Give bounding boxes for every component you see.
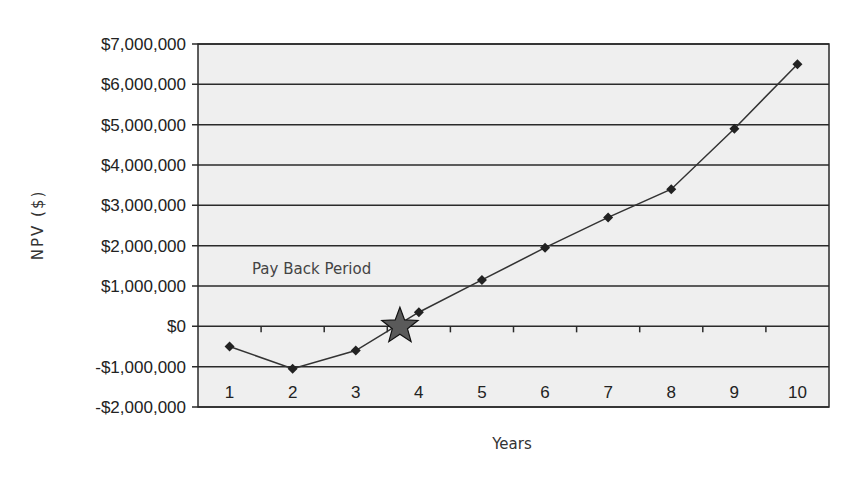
payback-period-label: Pay Back Period: [252, 260, 371, 278]
x-tick-label: 5: [477, 383, 486, 402]
y-tick-label: $3,000,000: [101, 196, 186, 215]
y-tick-label: -$2,000,000: [95, 398, 186, 417]
y-tick-label: $1,000,000: [101, 277, 186, 296]
plot-area: [198, 44, 829, 407]
x-tick-label: 9: [730, 383, 739, 402]
x-tick-label: 10: [788, 383, 807, 402]
npv-line-chart: $7,000,000$6,000,000$5,000,000$4,000,000…: [0, 0, 851, 479]
x-tick-label: 6: [540, 383, 549, 402]
y-tick-label: $6,000,000: [101, 75, 186, 94]
y-tick-label: $5,000,000: [101, 116, 186, 135]
y-axis-title: NPV ($): [29, 190, 47, 261]
x-tick-label: 7: [603, 383, 612, 402]
y-axis-tick-labels: $7,000,000$6,000,000$5,000,000$4,000,000…: [95, 35, 186, 417]
y-tick-label: $0: [167, 317, 186, 336]
x-tick-label: 3: [351, 383, 360, 402]
y-tick-label: $7,000,000: [101, 35, 186, 54]
x-tick-label: 4: [414, 383, 423, 402]
y-tick-label: $4,000,000: [101, 156, 186, 175]
y-tick-label: $2,000,000: [101, 237, 186, 256]
y-tick-label: -$1,000,000: [95, 358, 186, 377]
x-axis-title: Years: [491, 435, 532, 453]
x-tick-label: 1: [225, 383, 234, 402]
x-tick-label: 8: [667, 383, 676, 402]
x-tick-label: 2: [288, 383, 297, 402]
